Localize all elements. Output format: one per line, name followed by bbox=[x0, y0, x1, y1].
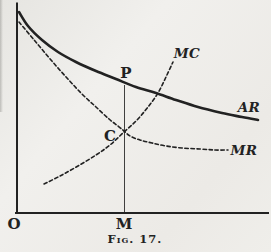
mr-curve bbox=[19, 22, 228, 150]
ar-curve bbox=[19, 12, 258, 120]
origin-label: O bbox=[7, 215, 20, 233]
point-c-label: C bbox=[104, 127, 116, 145]
mr-curve-label: MR bbox=[229, 142, 257, 158]
mc-curve bbox=[44, 62, 173, 184]
scanned-textbook-figure: MC AR MR P C O M Fig. 17. bbox=[0, 0, 271, 252]
point-p-label: P bbox=[120, 64, 131, 82]
point-m-label: M bbox=[116, 215, 133, 233]
figure-17-diagram: MC AR MR P C O M Fig. 17. bbox=[0, 0, 271, 252]
ar-curve-label: AR bbox=[236, 99, 261, 115]
mc-curve-label: MC bbox=[173, 45, 201, 61]
figure-caption: Fig. 17. bbox=[108, 232, 163, 246]
